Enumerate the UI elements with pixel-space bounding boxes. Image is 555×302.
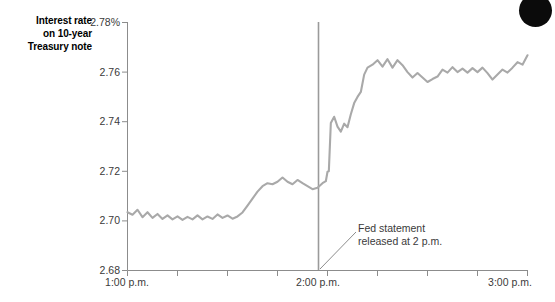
- series-line-interest-rate: [128, 55, 528, 220]
- x-axis-ticks: [128, 271, 528, 277]
- y-axis-ticks: [122, 23, 128, 271]
- annotation-leader-line: [320, 232, 356, 269]
